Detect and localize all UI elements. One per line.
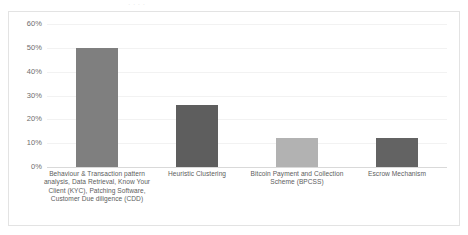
- category-label-4: Escrow Mechanism: [349, 170, 445, 178]
- bar-3[interactable]: [276, 138, 318, 167]
- category-label-2: Heuristic Clustering: [149, 170, 245, 178]
- category-label-1: Behaviour & Transaction pattern analysis…: [41, 170, 153, 204]
- bar-2[interactable]: [176, 105, 218, 167]
- y-axis-tick-label: 50%: [27, 44, 42, 52]
- cropped-header-remnant: · · · ·: [0, 0, 468, 9]
- bar-chart: 60%50%40%30%20%10%0% Behaviour & Transac…: [8, 11, 460, 226]
- cropped-header-text: · · · ·: [0, 1, 145, 8]
- x-axis-category-labels: Behaviour & Transaction pattern analysis…: [47, 170, 447, 222]
- gridline-0: 0%: [47, 167, 447, 168]
- y-axis-tick-label: 30%: [27, 92, 42, 100]
- y-axis-tick-label: 60%: [27, 20, 42, 28]
- bar-1[interactable]: [76, 48, 118, 167]
- category-label-3: Bitcoin Payment and Collection Scheme (B…: [245, 170, 349, 187]
- y-axis-tick-label: 10%: [27, 139, 42, 147]
- gridline-60: 60%: [47, 24, 447, 25]
- y-axis-tick-label: 20%: [27, 115, 42, 123]
- plot-area: 60%50%40%30%20%10%0%: [47, 24, 447, 167]
- y-axis-tick-label: 40%: [27, 68, 42, 76]
- bar-4[interactable]: [376, 138, 418, 167]
